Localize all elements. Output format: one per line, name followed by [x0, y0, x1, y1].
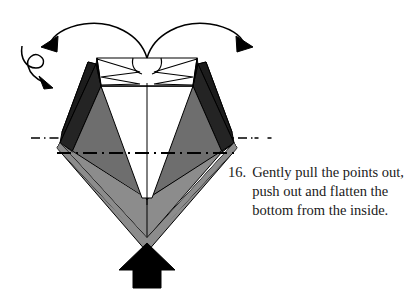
caption-number: 16. [228, 163, 246, 182]
origami-figure [0, 0, 415, 293]
caption-block: 16. Gently pull the points out, push out… [228, 163, 408, 220]
caption-text: Gently pull the points out, push out and… [252, 163, 408, 220]
origami-diagram-svg [0, 0, 415, 293]
